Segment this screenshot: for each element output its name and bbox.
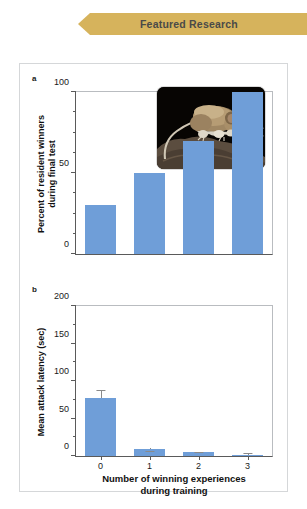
y-tick-major bbox=[71, 343, 76, 344]
panel-a-letter: a bbox=[32, 74, 36, 83]
x-tick-label: 2 bbox=[196, 461, 201, 471]
y-tick-major bbox=[71, 418, 76, 419]
y-tick-minor bbox=[73, 399, 77, 400]
featured-research-banner: Featured Research bbox=[78, 13, 307, 35]
x-tick-label: 0 bbox=[98, 461, 103, 471]
y-tick-minor bbox=[73, 111, 77, 112]
panel-b-y-axis-label: Mean attack latency (sec) bbox=[36, 302, 47, 462]
y-tick-minor bbox=[73, 324, 77, 325]
y-tick-minor bbox=[73, 132, 77, 133]
y-tick-minor bbox=[73, 213, 77, 214]
x-tick bbox=[248, 456, 249, 460]
y-tick-label: 100 bbox=[54, 77, 69, 87]
x-tick-label: 1 bbox=[147, 461, 152, 471]
panel-a-y-axis-label: Percent of resident winners during final… bbox=[36, 94, 57, 254]
x-tick bbox=[101, 456, 102, 460]
y-tick-label: 200 bbox=[54, 291, 69, 301]
y-tick-major bbox=[71, 380, 76, 381]
y-tick-minor bbox=[73, 152, 77, 153]
y-tick-label: 0 bbox=[64, 441, 69, 451]
x-tick-label: 3 bbox=[245, 461, 250, 471]
error-bar bbox=[248, 454, 249, 455]
y-tick-label: 0 bbox=[64, 239, 69, 249]
y-tick-minor bbox=[73, 192, 77, 193]
panel-b-plot-area: 0501001502000123 bbox=[75, 305, 273, 457]
figure-card: a Percent of resident winners during fin… bbox=[19, 63, 288, 492]
y-tick-minor bbox=[73, 233, 77, 234]
bar bbox=[232, 92, 262, 254]
error-bar bbox=[101, 391, 102, 398]
error-bar-cap bbox=[194, 452, 203, 453]
banner-arrow-icon bbox=[78, 13, 90, 35]
bar bbox=[85, 398, 115, 457]
panel-b: b Mean attack latency (sec) 050100150200… bbox=[20, 277, 289, 493]
panel-a: a Percent of resident winners during fin… bbox=[20, 64, 289, 277]
y-tick-label: 50 bbox=[59, 158, 69, 168]
y-tick-label: 150 bbox=[54, 329, 69, 339]
error-bar-cap bbox=[243, 453, 252, 454]
y-tick-major bbox=[71, 455, 76, 456]
y-tick-major bbox=[71, 305, 76, 306]
bar bbox=[183, 141, 213, 254]
error-bar-cap bbox=[145, 451, 154, 452]
y-tick-major bbox=[71, 91, 76, 92]
error-bar bbox=[150, 448, 151, 449]
x-tick bbox=[199, 456, 200, 460]
panel-a-plot-area: 050100 bbox=[75, 91, 273, 255]
y-tick-major bbox=[71, 172, 76, 173]
bar bbox=[134, 173, 164, 254]
bar bbox=[85, 205, 115, 254]
y-tick-major bbox=[71, 253, 76, 254]
y-tick-minor bbox=[73, 361, 77, 362]
error-bar-cap bbox=[96, 390, 105, 391]
x-tick bbox=[150, 456, 151, 460]
panel-b-letter: b bbox=[32, 285, 37, 294]
y-tick-minor bbox=[73, 436, 77, 437]
banner-label: Featured Research bbox=[140, 13, 238, 35]
y-tick-label: 100 bbox=[54, 366, 69, 376]
panel-b-x-axis-label: Number of winning experiences during tra… bbox=[75, 473, 273, 496]
y-tick-label: 50 bbox=[59, 404, 69, 414]
